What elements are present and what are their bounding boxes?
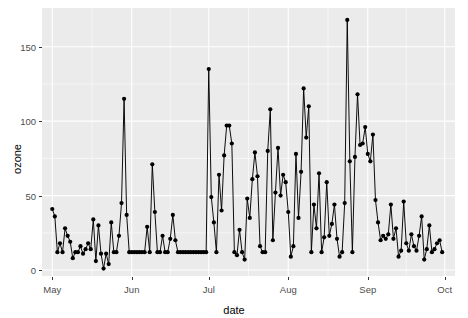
- data-point: [409, 232, 413, 236]
- y-tick-mark: [39, 270, 42, 271]
- data-point: [243, 258, 247, 262]
- data-point: [207, 67, 211, 71]
- data-point: [281, 173, 285, 177]
- data-point: [68, 240, 72, 244]
- data-point: [94, 259, 98, 263]
- data-point: [150, 162, 154, 166]
- data-point: [122, 97, 126, 101]
- series-canvas: [42, 8, 455, 276]
- data-point: [153, 210, 157, 214]
- data-point: [230, 141, 234, 145]
- data-point: [101, 266, 105, 270]
- data-point: [422, 258, 426, 262]
- data-point: [271, 238, 275, 242]
- data-point: [248, 216, 252, 220]
- x-tick-label: Sep: [359, 284, 376, 295]
- data-point: [353, 155, 357, 159]
- data-point: [245, 196, 249, 200]
- data-point: [60, 250, 64, 254]
- data-point: [99, 252, 103, 256]
- y-tick-label: 100: [20, 116, 36, 127]
- data-point: [373, 198, 377, 202]
- data-point: [312, 202, 316, 206]
- x-tick-mark: [288, 277, 289, 280]
- data-point: [145, 225, 149, 229]
- data-point: [432, 247, 436, 251]
- x-tick-label: Aug: [280, 284, 297, 295]
- data-point: [173, 238, 177, 242]
- data-point: [355, 92, 359, 96]
- data-point: [284, 180, 288, 184]
- data-point: [337, 255, 341, 259]
- data-point: [250, 177, 254, 181]
- x-axis-title: date: [0, 304, 468, 316]
- data-point: [389, 202, 393, 206]
- y-tick-label: 0: [31, 265, 36, 276]
- data-point: [302, 86, 306, 90]
- data-point: [255, 174, 259, 178]
- data-point: [289, 255, 293, 259]
- data-point: [304, 135, 308, 139]
- data-point: [425, 247, 429, 251]
- data-point: [299, 170, 303, 174]
- data-point: [325, 180, 329, 184]
- y-tick-label: 150: [20, 41, 36, 52]
- data-point: [317, 171, 321, 175]
- data-point: [237, 228, 241, 232]
- data-point: [81, 252, 85, 256]
- data-point: [273, 191, 277, 195]
- data-point: [307, 104, 311, 108]
- data-point: [371, 132, 375, 136]
- data-point: [219, 208, 223, 212]
- data-point: [58, 241, 62, 245]
- x-tick-label: Jul: [203, 284, 215, 295]
- x-tick-label: May: [43, 284, 61, 295]
- data-point: [258, 244, 262, 248]
- data-point: [214, 250, 218, 254]
- data-point: [86, 241, 90, 245]
- data-point: [148, 250, 152, 254]
- data-point: [414, 249, 418, 253]
- data-point: [71, 256, 75, 260]
- data-point: [253, 150, 257, 154]
- data-point: [427, 223, 431, 227]
- data-point: [119, 201, 123, 205]
- data-point: [107, 262, 111, 266]
- data-point: [263, 250, 267, 254]
- data-point: [89, 247, 93, 251]
- data-point: [50, 207, 54, 211]
- y-tick-label: 50: [25, 190, 36, 201]
- data-point: [420, 214, 424, 218]
- y-tick-mark: [39, 196, 42, 197]
- data-point: [91, 217, 95, 221]
- data-point: [217, 173, 221, 177]
- data-point: [222, 153, 226, 157]
- data-point: [235, 253, 239, 257]
- x-tick-mark: [52, 277, 53, 280]
- data-point: [363, 125, 367, 129]
- plot-panel: [42, 8, 455, 276]
- data-point: [171, 213, 175, 217]
- x-tick-label: Oct: [437, 284, 452, 295]
- data-point: [320, 250, 324, 254]
- data-point: [296, 216, 300, 220]
- data-point: [368, 159, 372, 163]
- data-point: [386, 232, 390, 236]
- data-point: [114, 250, 118, 254]
- data-point: [412, 244, 416, 248]
- data-point: [240, 250, 244, 254]
- data-point: [404, 241, 408, 245]
- data-point: [417, 234, 421, 238]
- data-point: [96, 223, 100, 227]
- data-point: [276, 146, 280, 150]
- data-point: [345, 18, 349, 22]
- data-point: [394, 226, 398, 230]
- data-point: [340, 250, 344, 254]
- x-tick-mark: [132, 277, 133, 280]
- data-point: [350, 250, 354, 254]
- data-point: [402, 199, 406, 203]
- y-axis-title: ozone: [11, 144, 23, 174]
- data-point: [78, 244, 82, 248]
- data-point: [314, 226, 318, 230]
- data-point: [204, 250, 208, 254]
